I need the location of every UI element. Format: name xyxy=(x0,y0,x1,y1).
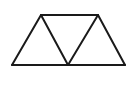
edge-top-right-to-bottom-right xyxy=(98,15,125,65)
triangle-diagram xyxy=(0,0,138,100)
edge-top-left-to-bottom-mid xyxy=(41,15,68,65)
diagram-edges xyxy=(12,15,125,65)
edge-bottom-mid-to-top-right xyxy=(68,15,98,65)
edge-bottom-left-to-top-left xyxy=(12,15,41,65)
